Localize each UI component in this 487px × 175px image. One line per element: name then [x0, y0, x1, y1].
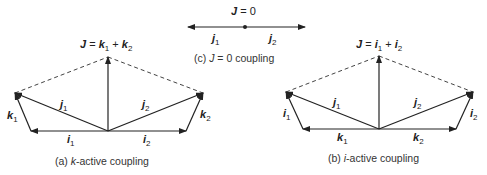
- dashed-line-left: [286, 56, 379, 92]
- caption-a: (a) k-active coupling: [55, 155, 149, 167]
- diagram-c: J = 0 j1 j2 (c) J = 0 coupling: [188, 5, 305, 64]
- caption-c: (c) J = 0 coupling: [194, 52, 274, 64]
- diagram-b: J = i1 + i2 j1 j2 i1 i2 k1 k2 (b) i-acti…: [283, 38, 478, 164]
- label-i2: i2: [143, 133, 151, 148]
- label-j2: j2: [412, 96, 422, 111]
- label-k1: k1: [337, 131, 348, 146]
- caption-b: (b) i-active coupling: [328, 152, 419, 164]
- label-j1: j1: [210, 32, 220, 47]
- diagram-a: J = k1 + k2 j1 j2 k1 k2 i1 i2 (a) k-acti…: [7, 38, 211, 167]
- label-i2: i2: [470, 107, 478, 122]
- label-k2: k2: [200, 108, 211, 123]
- label-j2: j2: [267, 32, 277, 47]
- dashed-line-right: [108, 57, 203, 93]
- label-j2: j2: [140, 98, 150, 113]
- vector-coupling-diagrams: J = 0 j1 j2 (c) J = 0 coupling J = k1 + …: [0, 0, 487, 175]
- origin-dot: [243, 25, 247, 29]
- dashed-line-left: [15, 57, 108, 93]
- dashed-line-right: [379, 56, 473, 92]
- label-k2: k2: [413, 131, 424, 146]
- label-i1: i1: [283, 107, 291, 122]
- label-j1: j1: [331, 96, 341, 111]
- label-k1: k1: [7, 109, 18, 124]
- label-i1: i1: [67, 133, 75, 148]
- diagram-b-equation: J = i1 + i2: [356, 38, 403, 53]
- diagram-a-equation: J = k1 + k2: [80, 38, 133, 53]
- diagram-c-equation: J = 0: [231, 5, 256, 17]
